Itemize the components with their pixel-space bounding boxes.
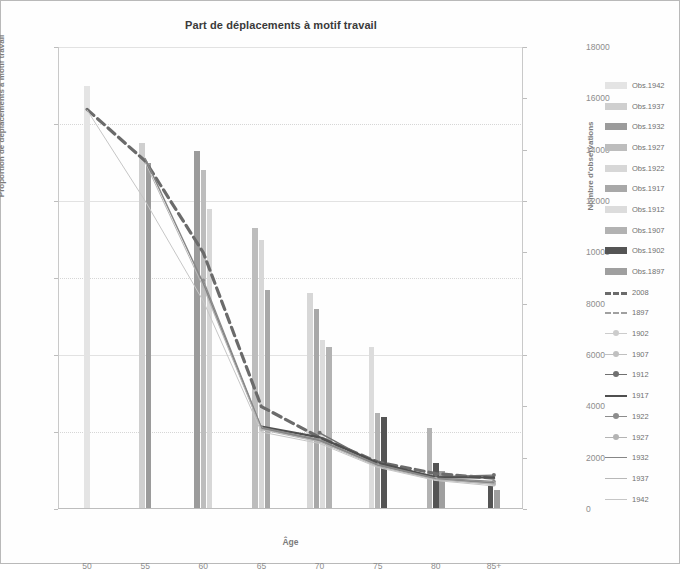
legend-line-icon — [605, 453, 627, 462]
legend-item-bar[interactable]: Obs.1927 — [605, 137, 679, 158]
chart-title: Part de déplacements à motif travail — [1, 19, 561, 31]
legend-swatch-icon — [605, 144, 627, 151]
legend-swatch-icon — [605, 82, 627, 89]
legend-label: Obs.1942 — [632, 81, 665, 90]
legend-line-icon — [605, 370, 627, 379]
legend-swatch-icon — [605, 227, 627, 234]
x-axis-tick: 85+ — [487, 561, 501, 571]
legend-label: Obs.1917 — [632, 184, 665, 193]
legend-item-line[interactable]: 2008 — [605, 282, 679, 303]
legend-label: 1912 — [632, 370, 649, 379]
legend-label: Obs.1912 — [632, 205, 665, 214]
line-marker — [318, 431, 322, 435]
legend-label: Obs.1907 — [632, 226, 665, 235]
tick-mark — [523, 406, 527, 407]
legend-line-icon — [605, 433, 627, 442]
legend-item-bar[interactable]: Obs.1912 — [605, 199, 679, 220]
tick-mark — [54, 278, 58, 279]
tick-mark — [523, 304, 527, 305]
tick-mark — [54, 432, 58, 433]
legend-swatch-icon — [605, 103, 627, 110]
legend-swatch-icon — [605, 123, 627, 130]
legend-item-line[interactable]: 1912 — [605, 365, 679, 386]
legend-line-icon — [605, 329, 627, 338]
x-axis-tick: 50 — [82, 561, 91, 571]
legend-label: 2008 — [632, 288, 649, 297]
legend-item-bar[interactable]: Obs.1897 — [605, 261, 679, 282]
legend-line-icon — [605, 412, 627, 421]
legend-line-icon — [605, 288, 627, 297]
legend-label: Obs.1937 — [632, 102, 665, 111]
legend-swatch-icon — [605, 268, 627, 275]
tick-mark — [523, 98, 527, 99]
legend-line-icon — [605, 391, 627, 400]
tick-mark — [523, 509, 527, 510]
legend-item-line[interactable]: 1907 — [605, 344, 679, 365]
legend: Obs.1942Obs.1937Obs.1932Obs.1927Obs.1922… — [605, 75, 679, 509]
x-axis-tick: 80 — [431, 561, 440, 571]
legend-line-icon — [605, 308, 627, 317]
legend-item-line[interactable]: 1937 — [605, 468, 679, 489]
legend-label: 1922 — [632, 412, 649, 421]
legend-item-bar[interactable]: Obs.1917 — [605, 178, 679, 199]
legend-swatch-icon — [605, 247, 627, 254]
legend-label: Obs.1932 — [632, 122, 665, 131]
tick-mark — [523, 252, 527, 253]
x-axis — [58, 508, 523, 509]
legend-label: 1927 — [632, 433, 649, 442]
legend-label: 1902 — [632, 329, 649, 338]
legend-item-line[interactable]: 1917 — [605, 385, 679, 406]
tick-mark — [54, 124, 58, 125]
legend-label: 1897 — [632, 308, 649, 317]
y-axis-left-label: Proportion de déplacements à motif trava… — [0, 31, 6, 201]
legend-item-line[interactable]: 1927 — [605, 427, 679, 448]
tick-mark — [54, 47, 58, 48]
legend-item-bar[interactable]: Obs.1937 — [605, 96, 679, 117]
y-axis-right-label: Nombre d'observations — [586, 101, 595, 231]
plot-area: 0%10%20%30%40%50%60%02000400060008000100… — [58, 47, 523, 509]
x-axis-tick: 65 — [257, 561, 266, 571]
y-axis-left — [58, 47, 59, 509]
legend-swatch-icon — [605, 206, 627, 213]
legend-item-bar[interactable]: Obs.1932 — [605, 116, 679, 137]
x-axis-tick: 75 — [373, 561, 382, 571]
y-axis-right — [522, 47, 523, 509]
legend-item-line[interactable]: 1922 — [605, 406, 679, 427]
legend-label: 1932 — [632, 453, 649, 462]
tick-mark — [523, 355, 527, 356]
tick-mark — [523, 201, 527, 202]
legend-item-line[interactable]: 1942 — [605, 489, 679, 510]
legend-item-line[interactable]: 1932 — [605, 447, 679, 468]
legend-item-bar[interactable]: Obs.1907 — [605, 220, 679, 241]
legend-label: 1942 — [632, 495, 649, 504]
tick-mark — [523, 47, 527, 48]
legend-item-line[interactable]: 1902 — [605, 323, 679, 344]
y-axis-right-tick: 18000 — [586, 42, 632, 52]
x-axis-tick: 60 — [199, 561, 208, 571]
lines-layer — [58, 47, 523, 509]
tick-mark — [523, 458, 527, 459]
legend-label: Obs.1902 — [632, 246, 665, 255]
legend-label: Obs.1922 — [632, 164, 665, 173]
legend-label: Obs.1927 — [632, 143, 665, 152]
legend-item-bar[interactable]: Obs.1902 — [605, 241, 679, 262]
legend-swatch-icon — [605, 185, 627, 192]
legend-item-bar[interactable]: Obs.1922 — [605, 158, 679, 179]
x-axis-tick: 70 — [315, 561, 324, 571]
legend-label: 1907 — [632, 350, 649, 359]
legend-line-icon — [605, 495, 627, 504]
tick-mark — [54, 509, 58, 510]
legend-swatch-icon — [605, 165, 627, 172]
tick-mark — [54, 201, 58, 202]
legend-line-icon — [605, 350, 627, 359]
tick-mark — [54, 355, 58, 356]
legend-label: 1937 — [632, 474, 649, 483]
legend-line-icon — [605, 474, 627, 483]
x-axis-tick: 55 — [140, 561, 149, 571]
tick-mark — [523, 150, 527, 151]
legend-label: 1917 — [632, 391, 649, 400]
legend-item-bar[interactable]: Obs.1942 — [605, 75, 679, 96]
x-axis-label: Âge — [58, 537, 523, 547]
legend-item-line[interactable]: 1897 — [605, 303, 679, 324]
